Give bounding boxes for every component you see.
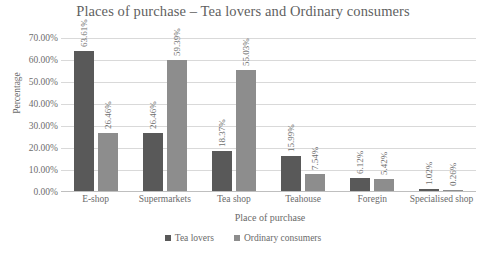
x-axis-tick: Foregin — [338, 194, 407, 205]
bar-group: 26.46%59.39% — [130, 38, 199, 191]
y-axis-tick-labels: 70.00%60.00%50.00%40.00%30.00%20.00%10.0… — [0, 38, 58, 192]
legend-item[interactable]: Ordinary consumers — [234, 233, 321, 243]
bar[interactable]: 59.39% — [167, 60, 187, 191]
bar-group: 1.02%0.26% — [407, 38, 476, 191]
x-axis-title: Place of purchase — [60, 212, 480, 223]
bar-value-label: 59.39% — [172, 29, 182, 57]
bar-value-label: 63.61% — [79, 19, 89, 47]
bar-group: 6.12%5.42% — [338, 38, 407, 191]
legend-label: Tea lovers — [175, 233, 214, 243]
bar-groups: 63.61%26.46%26.46%59.39%18.37%55.03%15.9… — [61, 38, 476, 191]
y-axis-tick: 50.00% — [2, 77, 58, 87]
bar[interactable]: 26.46% — [98, 133, 118, 191]
chart-title: Places of purchase – Tea lovers and Ordi… — [0, 3, 486, 20]
x-axis-tick: Teahouse — [269, 194, 338, 205]
bar-value-label: 1.02% — [424, 162, 434, 185]
x-axis-tick: Specialised shop — [407, 194, 476, 205]
legend-item[interactable]: Tea lovers — [165, 233, 214, 243]
x-axis-tick-labels: E-shopSupermarketsTea shopTeahouseForegi… — [61, 194, 476, 205]
bar-value-label: 18.37% — [217, 119, 227, 147]
x-axis-tick: Tea shop — [199, 194, 268, 205]
x-axis-tick: Supermarkets — [130, 194, 199, 205]
bar-chart: Places of purchase – Tea lovers and Ordi… — [0, 0, 486, 259]
bar[interactable]: 18.37% — [212, 151, 232, 191]
bar-value-label: 15.99% — [286, 124, 296, 152]
bar[interactable]: 55.03% — [236, 70, 256, 191]
legend-swatch-icon — [234, 235, 240, 241]
y-axis-tick: 20.00% — [2, 143, 58, 153]
bar-group: 18.37%55.03% — [199, 38, 268, 191]
bar[interactable]: 0.26% — [443, 190, 463, 191]
y-axis-tick: 0.00% — [2, 187, 58, 197]
y-axis-tick: 40.00% — [2, 99, 58, 109]
y-axis-tick: 70.00% — [2, 33, 58, 43]
y-axis-tick: 30.00% — [2, 121, 58, 131]
bar-value-label: 5.42% — [379, 152, 389, 175]
bar-value-label: 26.46% — [103, 101, 113, 129]
plot-area: 63.61%26.46%26.46%59.39%18.37%55.03%15.9… — [61, 38, 476, 192]
chart-legend: Tea loversOrdinary consumers — [0, 233, 486, 243]
bar-value-label: 7.54% — [310, 147, 320, 170]
bar-value-label: 26.46% — [148, 101, 158, 129]
bar-value-label: 6.12% — [355, 150, 365, 173]
bar-group: 63.61%26.46% — [61, 38, 130, 191]
bar[interactable]: 7.54% — [305, 174, 325, 191]
bar[interactable]: 63.61% — [74, 51, 94, 191]
y-axis-tick: 10.00% — [2, 165, 58, 175]
bar[interactable]: 6.12% — [350, 178, 370, 191]
bar-group: 15.99%7.54% — [269, 38, 338, 191]
x-axis-tick: E-shop — [61, 194, 130, 205]
bar[interactable]: 5.42% — [374, 179, 394, 191]
bar[interactable]: 15.99% — [281, 156, 301, 191]
axis-baseline — [61, 191, 476, 192]
bar[interactable]: 26.46% — [143, 133, 163, 191]
bar-value-label: 0.26% — [448, 163, 458, 186]
legend-label: Ordinary consumers — [244, 233, 321, 243]
bar-value-label: 55.03% — [241, 38, 251, 66]
bar[interactable]: 1.02% — [419, 189, 439, 191]
legend-swatch-icon — [165, 235, 171, 241]
y-axis-tick: 60.00% — [2, 55, 58, 65]
